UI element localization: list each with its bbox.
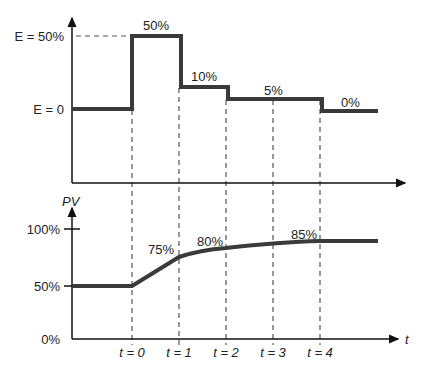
tick-50: 50% <box>34 279 60 294</box>
xtick-t0: t = 0 <box>119 345 145 360</box>
label-75: 75% <box>148 242 174 257</box>
label-10: 10% <box>191 69 217 84</box>
label-50: 50% <box>143 18 169 33</box>
label-80: 80% <box>197 234 223 249</box>
x-axis-label: t <box>405 332 410 347</box>
xtick-t4: t = 4 <box>307 345 333 360</box>
label-85: 85% <box>291 227 317 242</box>
label-0: 0% <box>341 95 360 110</box>
xtick-t1: t = 1 <box>166 345 192 360</box>
tick-100: 100% <box>27 222 61 237</box>
time-guides <box>132 88 320 345</box>
pv-response-line <box>72 241 378 286</box>
xtick-t3: t = 3 <box>260 345 286 360</box>
e-step-line <box>72 36 378 111</box>
tick-0: 0% <box>41 332 60 347</box>
tick-e0: E = 0 <box>33 102 64 117</box>
bottom-axes <box>64 208 398 339</box>
pv-axis-label: PV <box>62 194 81 209</box>
label-5: 5% <box>264 83 283 98</box>
tick-e50: E = 50% <box>14 29 64 44</box>
xtick-t2: t = 2 <box>213 345 239 360</box>
chart-canvas: E = 50% E = 0 50% 10% 5% 0% PV 100% 50% … <box>0 0 424 371</box>
